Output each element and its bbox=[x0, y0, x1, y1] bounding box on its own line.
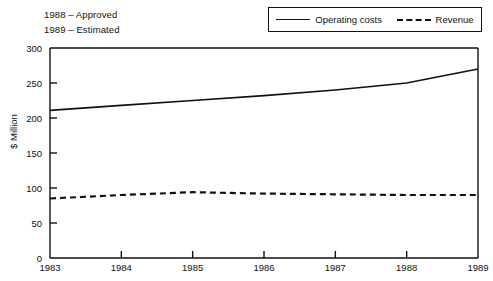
y-axis-tick-labels: 050100150200250300 bbox=[14, 0, 42, 281]
x-axis-tick-label: 1983 bbox=[30, 262, 70, 273]
legend-item-operating-costs: Operating costs bbox=[276, 14, 382, 25]
y-axis-tick-label: 150 bbox=[16, 148, 42, 159]
x-axis-tick-label: 1987 bbox=[315, 262, 355, 273]
legend-swatch-dashed-line-icon bbox=[397, 15, 431, 24]
y-axis-tick-label: 100 bbox=[16, 183, 42, 194]
x-axis-tick-label: 1985 bbox=[173, 262, 213, 273]
y-axis-tick-label: 300 bbox=[16, 43, 42, 54]
y-axis-tick-label: 250 bbox=[16, 78, 42, 89]
legend-swatch-solid-line-icon bbox=[276, 15, 310, 24]
y-axis-ticks bbox=[50, 83, 57, 223]
series-line-operating-costs bbox=[50, 69, 478, 110]
x-axis-tick-label: 1984 bbox=[101, 262, 141, 273]
legend-item-revenue: Revenue bbox=[397, 14, 474, 25]
y-axis-tick-label: 50 bbox=[16, 218, 42, 229]
annotation-approved: 1988 – Approved bbox=[44, 7, 120, 22]
annotation-estimated: 1989 – Estimated bbox=[44, 22, 120, 37]
x-axis-ticks bbox=[121, 251, 406, 258]
series-line-revenue bbox=[50, 192, 478, 198]
y-axis-tick-label: 200 bbox=[16, 113, 42, 124]
chart-plot-area bbox=[0, 0, 493, 281]
x-axis-tick-label: 1986 bbox=[244, 262, 284, 273]
legend-label-revenue: Revenue bbox=[436, 14, 474, 25]
chart-legend: Operating costs Revenue bbox=[268, 7, 482, 32]
x-axis-tick-label: 1988 bbox=[387, 262, 427, 273]
legend-label-operating-costs: Operating costs bbox=[315, 14, 382, 25]
x-axis-tick-label: 1989 bbox=[458, 262, 493, 273]
chart-figure: 1988 – Approved 1989 – Estimated Operati… bbox=[0, 0, 493, 281]
chart-annotations: 1988 – Approved 1989 – Estimated bbox=[44, 7, 120, 37]
axis-lines bbox=[50, 48, 478, 258]
